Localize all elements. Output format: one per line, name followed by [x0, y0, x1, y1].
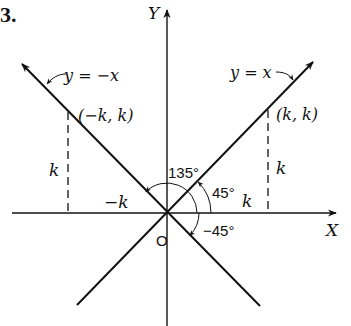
- coordinate-diagram: 3. X Y O y = −x y = x (−k, k) (k, k) k −…: [0, 0, 351, 326]
- label-left-vertical-k: k: [49, 160, 59, 180]
- label-y-equals-neg-x: y = −x: [63, 66, 119, 85]
- arc-angle-45: [198, 182, 211, 213]
- y-axis-label: Y: [148, 3, 161, 23]
- line-y-equals-x: [77, 62, 313, 305]
- figure-number: 3.: [0, 2, 17, 27]
- origin-label: O: [156, 232, 168, 249]
- point-label-neg-k-k: (−k, k): [78, 106, 133, 125]
- label-right-vertical-k: k: [276, 158, 286, 178]
- label-angle-neg-45: −45°: [203, 222, 234, 239]
- label-left-horizontal-neg-k: −k: [104, 192, 129, 212]
- label-angle-135: 135°: [168, 164, 199, 181]
- label-right-horizontal-k: k: [242, 191, 252, 211]
- leader-y-equals-x: [276, 72, 293, 80]
- arc-angle-neg-45: [190, 213, 199, 236]
- x-axis-label: X: [324, 220, 339, 240]
- label-angle-45: 45°: [212, 184, 235, 201]
- point-label-k-k: (k, k): [276, 105, 318, 124]
- label-y-equals-x: y = x: [229, 63, 272, 82]
